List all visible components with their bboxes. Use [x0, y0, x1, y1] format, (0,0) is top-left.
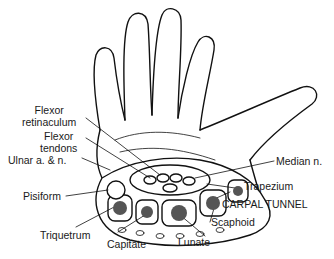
label-line: retinaculum	[22, 116, 76, 128]
label-flexor-tendons: Flexor tendons	[40, 130, 77, 154]
label-ulnar: Ulnar a. & n.	[8, 154, 66, 166]
label-scaphoid: Scaphoid	[211, 216, 255, 228]
label-trapezium: Trapezium	[244, 180, 293, 192]
label-line: Flexor	[22, 104, 76, 116]
label-median-nerve: Median n.	[276, 155, 322, 167]
label-capitate: Capitate	[107, 238, 146, 250]
label-flexor-retinaculum: Flexor retinaculum	[22, 104, 76, 128]
label-carpal-tunnel: CARPAL TUNNEL	[222, 198, 308, 210]
label-lunate: Lunate	[178, 236, 210, 248]
label-line: Flexor	[40, 130, 77, 142]
label-line: tendons	[40, 142, 77, 154]
label-triquetrum: Triquetrum	[40, 229, 90, 241]
label-pisiform: Pisiform	[23, 190, 61, 202]
carpal-tunnel-diagram: Flexor retinaculum Flexor tendons Ulnar …	[0, 0, 334, 259]
